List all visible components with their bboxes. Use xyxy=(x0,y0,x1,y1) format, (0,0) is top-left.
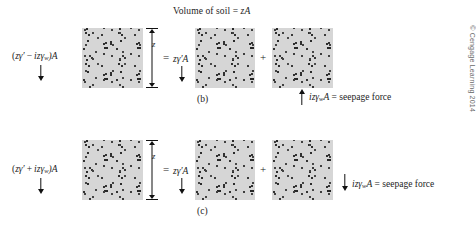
figure-title-variable: zA xyxy=(241,6,251,16)
row-c-soil-block-submerged xyxy=(195,140,255,200)
row-b-plus-sign: + xyxy=(260,52,266,63)
row-b-left-force-label: (zγ′−izγw)A xyxy=(12,52,57,62)
row-b-caption: (b) xyxy=(197,95,208,105)
row-c-middle-force-label: zγ′A xyxy=(173,167,188,177)
row-c-plus-sign: + xyxy=(260,164,266,175)
row-b-middle-force-arrow-down-icon xyxy=(177,66,187,82)
row-b-seepage-term: izγ xyxy=(309,92,319,102)
row-c-left-force-label: (zγ′+izγw)A xyxy=(12,165,57,175)
row-b-seepage-force-arrow-up-icon xyxy=(297,89,307,105)
copyright-notice: © Cengage Learning 2014 xyxy=(469,25,476,112)
row-b-left-paren-close: )A xyxy=(48,51,57,61)
row-c-seepage-equals-text: = seepage force xyxy=(372,179,434,189)
row-c-seepage-term: izγ xyxy=(352,179,362,189)
row-b-left-term1: zγ′ xyxy=(15,51,25,61)
figure-title-text: Volume of soil = xyxy=(173,6,241,16)
row-b-depth-dimension xyxy=(146,28,158,88)
row-c-left-term2: izγ xyxy=(34,164,44,174)
row-c-seepage-force-label: izγwA = seepage force xyxy=(352,180,434,190)
row-b-middle-term: zγ′A xyxy=(173,54,188,64)
row-b-equals-sign: = xyxy=(163,52,169,63)
row-b-left-term2: izγ xyxy=(34,51,44,61)
row-b-soil-block-total xyxy=(82,28,143,88)
row-b-left-force-arrow-down-icon xyxy=(36,65,46,81)
row-b-seepage-equals-text: = seepage force xyxy=(329,92,391,102)
row-c-left-term1: zγ′ xyxy=(15,164,25,174)
row-c-left-paren-close: )A xyxy=(48,164,57,174)
row-b-seepage-force-label: izγwA = seepage force xyxy=(309,93,391,103)
row-c-soil-block-total xyxy=(82,140,143,200)
row-b-soil-block-submerged xyxy=(195,28,255,88)
row-c-left-operator: + xyxy=(25,164,34,174)
row-c-depth-dimension xyxy=(146,140,158,200)
row-c-soil-block-seepage xyxy=(272,140,333,200)
row-c-middle-force-arrow-down-icon xyxy=(177,178,187,194)
row-c-depth-label: z xyxy=(152,152,155,161)
figure-title: Volume of soil = zA xyxy=(173,7,250,17)
row-c-equals-sign: = xyxy=(163,164,169,175)
row-c-middle-term: zγ′A xyxy=(173,166,188,176)
row-b-depth-label: z xyxy=(152,40,155,49)
row-c-seepage-force-arrow-down-icon xyxy=(340,174,350,191)
row-b-middle-force-label: zγ′A xyxy=(173,55,188,65)
row-c-caption: (c) xyxy=(197,207,208,217)
row-c-left-force-arrow-down-icon xyxy=(36,178,46,194)
row-b-left-operator: − xyxy=(25,51,34,61)
row-b-soil-block-seepage xyxy=(272,28,333,88)
